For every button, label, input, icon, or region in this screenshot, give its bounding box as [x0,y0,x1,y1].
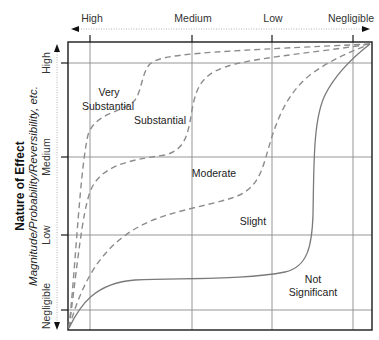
left-axis-label-negligible: Negligible [40,283,52,329]
arrow-left-icon [71,26,79,32]
label-not-significant-1: Not [305,273,321,285]
label-slight: Slight [240,215,266,227]
top-axis-label-high: High [81,12,103,24]
top-axis-label-medium: Medium [174,12,212,24]
left-axis-label-medium: Medium [40,138,52,176]
left-axis: Nature of Effect Magnitude/Probability/R… [13,44,60,330]
top-axis: High Medium Low Negligible [71,12,374,32]
top-axis-label-negligible: Negligible [328,12,374,24]
top-axis-label-low: Low [263,12,283,24]
left-axis-title: Nature of Effect [13,141,27,230]
arrow-down-icon [54,322,60,330]
left-axis-subtitle: Magnitude/Probability/Reversibility, etc… [27,86,39,286]
region-labels: Very Substantial Substantial Moderate Sl… [82,86,337,298]
significance-matrix-diagram: High Medium Low Negligible Nature of Eff… [0,0,379,340]
arrow-right-icon [362,26,370,32]
left-axis-label-low: Low [40,225,52,245]
label-very-substantial-2: Substantial [82,100,134,112]
label-not-significant-2: Significant [289,286,338,298]
label-moderate: Moderate [192,167,237,179]
label-substantial: Substantial [134,114,186,126]
label-very-substantial-1: Very [98,86,120,98]
left-axis-label-high: High [40,52,52,74]
arrow-up-icon [54,44,60,52]
